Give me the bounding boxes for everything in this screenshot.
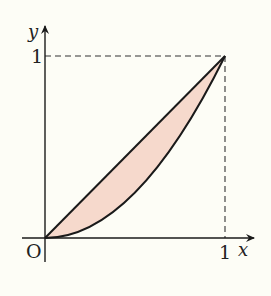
- diagram-canvas: y 1 O 1 x: [0, 0, 271, 296]
- y-axis-label: y: [27, 21, 39, 42]
- x-tick-label: 1: [219, 241, 231, 263]
- x-axis-label: x: [238, 239, 248, 260]
- line-y-equals-x: [45, 56, 225, 238]
- y-tick-label: 1: [31, 45, 43, 67]
- origin-label: O: [26, 240, 42, 262]
- area-plot: y 1 O 1 x: [0, 0, 271, 296]
